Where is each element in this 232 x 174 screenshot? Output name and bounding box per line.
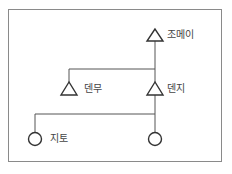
female-circle-icon (149, 133, 162, 146)
node-label-tenji: 덴지 (167, 83, 185, 95)
male-triangle-icon (147, 29, 163, 41)
node-label-jomei: 조메이 (167, 29, 194, 41)
node-label-tenmu: 덴무 (84, 83, 102, 95)
female-circle-icon (29, 133, 42, 146)
kinship-lines (0, 0, 232, 174)
male-triangle-icon (147, 82, 163, 95)
male-triangle-icon (61, 82, 77, 95)
node-label-jito: 지토 (50, 133, 68, 145)
